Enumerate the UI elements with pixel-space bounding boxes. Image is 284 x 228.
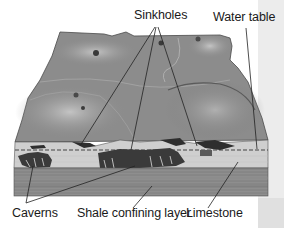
shale-confining-layer-label: Shale confining layer [77,206,191,220]
caverns-label: Caverns [12,206,58,220]
water-table-label: Water table [213,10,275,24]
sinkholes-label: Sinkholes [134,8,187,22]
karst-block-diagram [0,0,284,228]
limestone-label: Limestone [186,206,243,220]
shale-confining-layer [14,168,268,196]
